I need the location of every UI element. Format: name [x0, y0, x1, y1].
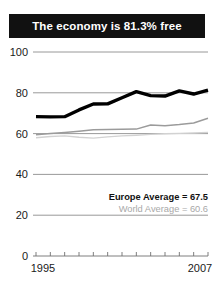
y-tick-label: 80	[16, 87, 28, 99]
x-tick-label: 2007	[188, 262, 212, 274]
y-tick-label: 100	[10, 46, 28, 58]
series-line-europe-average	[36, 118, 208, 135]
y-axis-tick-labels: 020406080100	[10, 46, 28, 262]
y-tick-label: 60	[16, 128, 28, 140]
economic-freedom-chart: The economy is 81.3% free 020406080100 1…	[0, 0, 215, 306]
chart-legend: Europe Average = 67.5 World Average = 60…	[109, 192, 208, 214]
legend-item-europe-average: Europe Average = 67.5	[109, 192, 208, 203]
legend-item-world-average: World Average = 60.6	[109, 204, 208, 215]
plot-area: 020406080100 19952007	[0, 0, 215, 306]
x-axis-tick-marks	[36, 252, 208, 256]
x-tick-label: 1995	[31, 262, 55, 274]
y-tick-label: 20	[16, 209, 28, 221]
series-line-country	[36, 90, 208, 117]
y-tick-label: 40	[16, 168, 28, 180]
y-tick-label: 0	[22, 250, 28, 262]
x-axis-tick-labels: 19952007	[31, 262, 212, 274]
gridlines-group	[33, 52, 208, 256]
